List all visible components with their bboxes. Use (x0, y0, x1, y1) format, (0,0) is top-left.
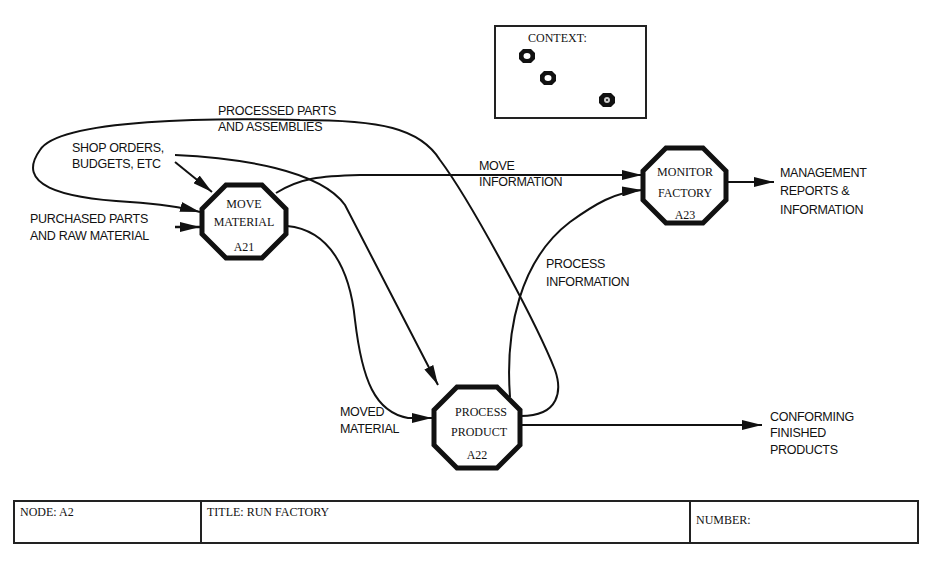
activity-a21-line2: MATERIAL (214, 215, 275, 229)
svg-text:FINISHED: FINISHED (770, 426, 826, 440)
svg-text:MANAGEMENT: MANAGEMENT (780, 166, 867, 180)
context-marker-icon (519, 49, 535, 63)
node-cell: NODE: A2 (15, 502, 200, 542)
svg-text:INFORMATION: INFORMATION (780, 203, 864, 217)
context-panel: CONTEXT: (495, 26, 646, 118)
number-cell: NUMBER: (689, 502, 917, 542)
label-management-reports: MANAGEMENT REPORTS & INFORMATION (780, 166, 867, 217)
svg-text:PURCHASED PARTS: PURCHASED PARTS (30, 212, 148, 226)
svg-text:REPORTS &: REPORTS & (780, 184, 850, 198)
svg-text:MATERIAL: MATERIAL (340, 422, 400, 436)
label-purchased-parts: PURCHASED PARTS AND RAW MATERIAL (30, 212, 149, 243)
svg-text:PROCESSED PARTS: PROCESSED PARTS (218, 104, 336, 118)
arrow-process-information (509, 190, 642, 397)
activity-a22-line2: PRODUCT (451, 425, 508, 439)
activity-a23-code: A23 (675, 208, 696, 222)
activity-a22-line1: PROCESS (455, 405, 507, 419)
label-process-information: PROCESS INFORMATION (546, 257, 630, 289)
svg-text:INFORMATION: INFORMATION (546, 275, 630, 289)
label-moved-material: MOVED MATERIAL (340, 405, 400, 436)
svg-text:INFORMATION: INFORMATION (479, 175, 563, 189)
idef0-diagram: CONTEXT: MOVE MATERIAL A21 (0, 0, 938, 569)
svg-text:PROCESS: PROCESS (546, 257, 605, 271)
svg-text:AND RAW MATERIAL: AND RAW MATERIAL (30, 229, 149, 243)
svg-text:MOVE: MOVE (479, 159, 515, 173)
activity-a22-code: A22 (467, 448, 488, 462)
activity-a21-code: A21 (234, 240, 255, 254)
svg-text:CONFORMING: CONFORMING (770, 410, 854, 424)
activity-a21-line1: MOVE (226, 197, 261, 211)
svg-text:PRODUCTS: PRODUCTS (770, 443, 838, 457)
context-label: CONTEXT: (528, 31, 587, 45)
label-shop-orders: SHOP ORDERS, BUDGETS, ETC (72, 141, 164, 171)
activity-box-a22[interactable]: PROCESS PRODUCT A22 (434, 387, 520, 468)
svg-text:AND ASSEMBLIES: AND ASSEMBLIES (218, 120, 322, 134)
arrow-shop-orders-to-a22 (175, 155, 438, 385)
activity-a23-line2: FACTORY (658, 186, 713, 200)
title-block: NODE: A2 TITLE: RUN FACTORY NUMBER: (13, 500, 919, 544)
context-marker-icon (540, 71, 556, 85)
svg-text:MOVED: MOVED (340, 405, 385, 419)
svg-text:BUDGETS, ETC: BUDGETS, ETC (72, 157, 161, 171)
activity-a23-line1: MONITOR (657, 165, 713, 179)
arrow-moved-material (287, 226, 432, 418)
activity-box-a23[interactable]: MONITOR FACTORY A23 (643, 148, 726, 223)
label-conforming-products: CONFORMING FINISHED PRODUCTS (770, 410, 854, 457)
arrow-shop-orders-to-a21 (175, 162, 212, 192)
context-marker-current-icon (599, 93, 615, 107)
svg-text:SHOP ORDERS,: SHOP ORDERS, (72, 141, 164, 155)
activity-box-a21[interactable]: MOVE MATERIAL A21 (202, 185, 286, 258)
title-cell: TITLE: RUN FACTORY (200, 502, 689, 542)
